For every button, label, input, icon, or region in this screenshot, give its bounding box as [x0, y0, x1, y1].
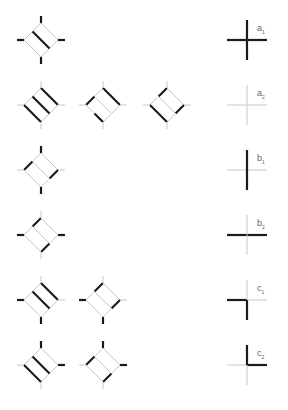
edge-bottom-right-upper	[112, 365, 121, 374]
edge-top-left-lower	[86, 292, 95, 301]
edge-top-left-upper	[33, 23, 42, 32]
edge-bottom-right-lower	[167, 114, 176, 123]
edge-bottom-left	[24, 235, 41, 252]
divider-line	[95, 97, 112, 114]
junction-label: b2	[257, 218, 265, 230]
edge-bottom-right-upper	[50, 170, 59, 179]
edge-bottom-left	[24, 365, 41, 382]
edge-top-left-upper	[159, 88, 168, 97]
edge-bottom-left	[24, 105, 41, 122]
diamond-module	[17, 81, 65, 129]
edge-top-right	[41, 348, 58, 365]
edge-bottom-right-upper	[112, 105, 121, 114]
edge-top-right	[41, 88, 58, 105]
edge-bottom-left	[150, 105, 167, 122]
diamond-module	[17, 211, 65, 259]
divider-line	[95, 357, 112, 374]
diamond-module	[143, 81, 191, 129]
edge-bottom-left	[24, 300, 41, 317]
junction-label: a1	[257, 23, 265, 35]
label-subscript: 2	[262, 354, 265, 360]
edge-top-right	[41, 283, 58, 300]
edge-bottom-right-upper	[50, 105, 59, 114]
label-subscript: 1	[262, 29, 265, 35]
edge-top-left-upper	[33, 218, 42, 227]
edge-bottom-left-upper	[86, 105, 95, 114]
edge-bottom-right-lower	[41, 309, 50, 318]
edge-bottom-right-upper	[112, 300, 121, 309]
edge-bottom-right-lower	[41, 49, 50, 58]
diamond-module	[17, 16, 65, 64]
junction-label: a2	[257, 88, 265, 100]
edge-bottom-left	[86, 365, 103, 382]
edge-bottom-right-upper	[50, 365, 59, 374]
edge-bottom-right-lower	[41, 374, 50, 383]
edge-bottom-right-lower	[41, 179, 50, 188]
divider-line	[33, 227, 50, 244]
edge-bottom-right-lower	[103, 374, 112, 383]
divider-line	[33, 292, 50, 309]
diamond-module	[17, 146, 65, 194]
edge-top-left-upper	[33, 153, 42, 162]
edge-top-left-upper	[33, 88, 42, 97]
edge-bottom-left-lower	[95, 114, 104, 123]
edge-bottom-right-upper	[176, 105, 185, 114]
edge-top-left-lower	[86, 357, 95, 366]
edge-bottom-right-lower	[41, 114, 50, 123]
label-subscript: 2	[262, 94, 265, 100]
label-subscript: 2	[262, 224, 265, 230]
junction-label: c2	[257, 348, 264, 360]
edge-top-right	[103, 348, 120, 365]
divider-line	[159, 97, 176, 114]
diamond-module	[17, 341, 65, 389]
edge-top-left-lower	[86, 97, 95, 106]
edge-bottom-right-lower	[103, 114, 112, 123]
edge-top-left-lower	[24, 357, 33, 366]
divider-line	[33, 97, 50, 114]
divider-line	[95, 292, 112, 309]
edge-bottom-right-lower	[103, 309, 112, 318]
diamond-module	[17, 276, 65, 324]
edge-top-left-upper	[33, 283, 42, 292]
edge-top-left-lower	[24, 292, 33, 301]
edge-bottom-right-lower	[41, 244, 50, 253]
divider-line	[33, 32, 50, 49]
edge-bottom-left	[24, 40, 41, 57]
divider-line	[33, 357, 50, 374]
edge-top-right	[41, 23, 58, 40]
junction-label: c1	[257, 283, 264, 295]
edge-bottom-right-upper	[50, 300, 59, 309]
edge-top-left-lower	[24, 227, 33, 236]
junction-label: b1	[257, 153, 265, 165]
edge-top-left-lower	[150, 97, 159, 106]
edge-top-right	[41, 153, 58, 170]
edge-bottom-right-upper	[50, 40, 59, 49]
diagram-canvas	[0, 0, 288, 410]
edge-top-left-lower	[24, 162, 33, 171]
diamond-module	[79, 341, 127, 389]
edge-top-left-lower	[24, 32, 33, 41]
divider-line	[33, 162, 50, 179]
edge-top-left-upper	[95, 348, 104, 357]
edge-top-left-lower	[24, 97, 33, 106]
edge-top-left-upper	[95, 283, 104, 292]
edge-bottom-right-upper	[50, 235, 59, 244]
label-subscript: 1	[262, 159, 265, 165]
edge-top-right	[103, 88, 120, 105]
edge-top-left-upper	[95, 88, 104, 97]
edge-top-left-upper	[33, 348, 42, 357]
edge-top-right	[167, 88, 184, 105]
edge-bottom-left	[24, 170, 41, 187]
edge-bottom-left	[86, 300, 103, 317]
label-subscript: 1	[262, 289, 265, 295]
diamond-module	[79, 276, 127, 324]
diamond-module	[79, 81, 127, 129]
edge-top-right	[103, 283, 120, 300]
edge-top-right	[41, 218, 58, 235]
